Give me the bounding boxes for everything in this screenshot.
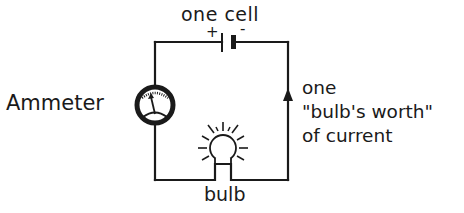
wire-bottom-left [155,164,215,180]
cell-label: one cell [181,5,259,24]
cell-icon [222,33,236,52]
current-label-line2: "bulb's worth" [302,100,433,124]
current-label: one "bulb's worth" of current [302,76,433,148]
current-arrow-icon [283,88,293,101]
ammeter-icon [137,87,173,123]
current-label-line3: of current [302,124,433,148]
ammeter-label: Ammeter [6,93,104,114]
positive-terminal-label: + [206,25,219,40]
current-label-line1: one [302,76,433,100]
bulb-label: bulb [204,185,245,204]
wire-bottom-right [231,164,288,180]
negative-terminal-label: - [240,22,245,37]
bulb-icon [198,122,248,164]
